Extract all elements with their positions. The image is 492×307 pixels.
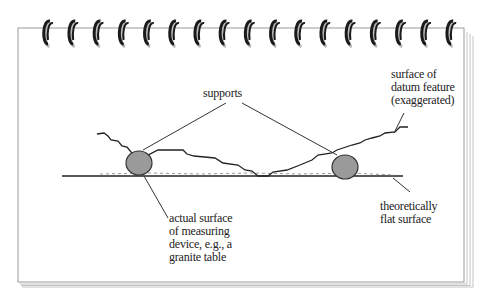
flat-surface-label: theoretically flat surface bbox=[380, 200, 437, 226]
supports-label: supports bbox=[203, 87, 242, 100]
notepad-diagram: supports surface of datum feature (exagg… bbox=[0, 0, 492, 307]
datum-surface-label: surface of datum feature (exaggerated) bbox=[391, 68, 455, 107]
support-right bbox=[332, 155, 358, 179]
diagram-canvas bbox=[0, 0, 492, 307]
measuring-surface-label: actual surface of measuring device, e.g.… bbox=[169, 212, 233, 264]
support-left bbox=[126, 151, 152, 175]
